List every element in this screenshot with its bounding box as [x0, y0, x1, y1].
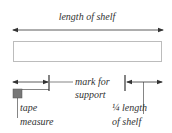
tape-label: tape [20, 102, 38, 113]
of-shelf-label: of shelf [112, 116, 142, 127]
mark-for-label: mark for [75, 76, 110, 87]
support-label: support [75, 89, 106, 100]
tape-measure-icon [13, 89, 22, 98]
measure-label: measure [20, 116, 54, 127]
shelf-outline [14, 42, 162, 62]
shelf-measurement-diagram: length of shelf mark for support tape me… [0, 0, 172, 133]
quarter-length-label: ¼ length [112, 102, 147, 113]
length-of-shelf-label: length of shelf [59, 11, 117, 22]
